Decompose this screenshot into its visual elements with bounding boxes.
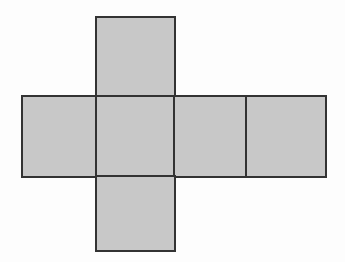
net-face-row-3	[174, 96, 246, 177]
net-faces-group	[22, 17, 326, 251]
net-face-row-1	[22, 96, 96, 177]
net-face-bottom	[96, 176, 175, 251]
net-face-row-4	[246, 96, 326, 177]
figure-canvas	[0, 0, 345, 262]
net-face-row-2	[96, 96, 174, 177]
cube-net-diagram	[0, 0, 345, 262]
net-face-top	[96, 17, 175, 97]
